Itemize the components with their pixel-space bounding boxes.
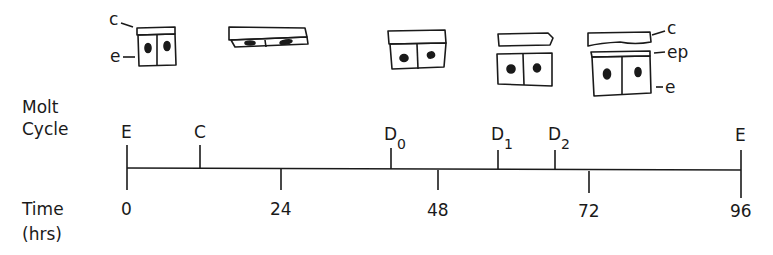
cell-drawing-stage-c — [229, 27, 308, 47]
timeline-axis — [127, 145, 741, 198]
cell-drawing-stage-e — [121, 23, 176, 66]
stage-label-c: C — [194, 124, 206, 141]
stage-label-d0-sub: 0 — [397, 136, 406, 152]
cell-drawing-stage-d0 — [388, 30, 446, 69]
row-label-molt: Molt — [22, 99, 58, 116]
cell-drawing-stage-d1 — [497, 33, 553, 86]
stage-label-d1-sub: 1 — [504, 136, 513, 152]
time-label-24: 24 — [270, 201, 292, 218]
time-label-48: 48 — [427, 202, 449, 219]
stage-label-d1-main: D — [491, 124, 504, 144]
stage-label-e-start: E — [121, 124, 132, 141]
row-label-time: Time — [22, 201, 64, 218]
time-label-72: 72 — [578, 203, 600, 220]
label-epidermis-left: e — [110, 48, 120, 65]
stage-label-e-end: E — [735, 127, 746, 144]
cell-drawing-stage-d2 — [588, 31, 665, 96]
label-epicuticle-right: ep — [667, 44, 688, 61]
time-label-0: 0 — [121, 201, 132, 218]
label-cuticle-right: c — [667, 20, 676, 37]
stage-label-d2-sub: 2 — [561, 136, 570, 152]
row-label-hrs: (hrs) — [22, 226, 62, 243]
time-label-96: 96 — [730, 203, 752, 220]
stage-label-d0-main: D — [384, 124, 397, 144]
stage-label-d1: D1 — [491, 126, 513, 143]
stage-label-d2: D2 — [548, 126, 570, 143]
label-cuticle-left: c — [109, 11, 118, 28]
label-epidermis-right: e — [665, 79, 675, 96]
stage-label-d2-main: D — [548, 124, 561, 144]
stage-label-d0: D0 — [384, 126, 406, 143]
row-label-cycle: Cycle — [22, 121, 68, 138]
